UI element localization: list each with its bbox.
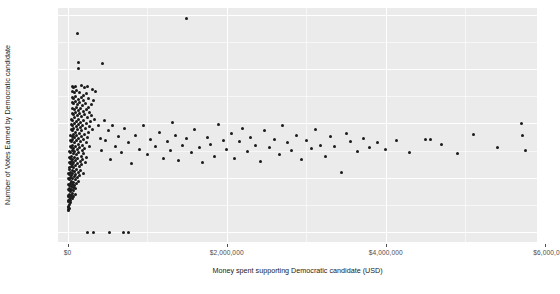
x-tick-label: $2,000,000 xyxy=(210,249,244,256)
x-tick-mark xyxy=(386,244,387,247)
x-tick-label: $6,000,0 xyxy=(533,249,559,256)
x-tick-mark xyxy=(227,244,228,247)
x-tick-label: $0 xyxy=(64,249,72,256)
x-axis-title: Money spent supporting Democratic candid… xyxy=(58,266,537,275)
x-tick-mark xyxy=(68,244,69,247)
y-axis-title: Number of Votes Earned by Democratic can… xyxy=(3,45,12,205)
x-tick-mark xyxy=(545,244,546,247)
y-axis-title-box: Number of Votes Earned by Democratic can… xyxy=(0,8,14,242)
x-tick-label: $4,000,000 xyxy=(369,249,403,256)
